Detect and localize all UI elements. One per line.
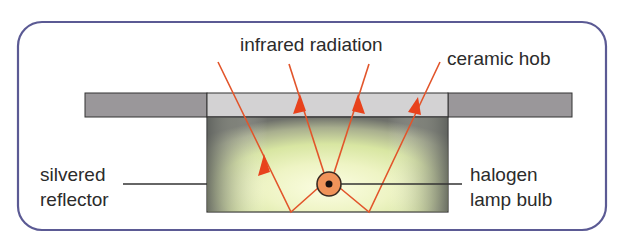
hob-right bbox=[448, 93, 572, 117]
label-lamp-bulb: lamp bulb bbox=[470, 189, 552, 211]
halogen-lamp-bulb bbox=[317, 172, 341, 196]
label-infrared-radiation: infrared radiation bbox=[240, 34, 383, 56]
reflector-shade bbox=[208, 118, 448, 212]
label-halogen: halogen bbox=[470, 164, 538, 186]
hob-left bbox=[85, 93, 207, 117]
label-reflector: reflector bbox=[40, 189, 109, 211]
hob-diagram: infrared radiation ceramic hob silvered … bbox=[0, 0, 621, 238]
label-silvered: silvered bbox=[40, 164, 105, 186]
label-ceramic-hob: ceramic hob bbox=[447, 48, 551, 70]
